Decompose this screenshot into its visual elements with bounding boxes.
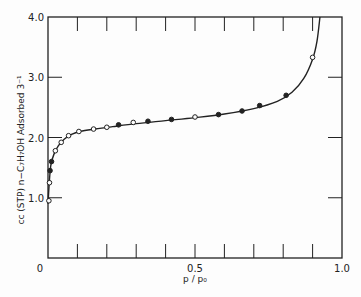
- data-point: [47, 180, 52, 185]
- y-axis-title: cc (STP) n−C₇H₇OH Adsorbed 3⁻¹: [16, 75, 26, 224]
- data-point: [105, 125, 110, 130]
- data-point: [310, 55, 315, 60]
- x-tick-label: 0.5: [187, 263, 203, 274]
- data-point: [66, 133, 71, 138]
- axis-tick-labels: 00.51.01.02.03.04.0: [28, 12, 350, 274]
- x-tick-label: 0: [37, 263, 43, 274]
- x-tick-label: 1.0: [334, 263, 350, 274]
- x-axis-title: p / p₀: [183, 274, 207, 284]
- data-point: [193, 115, 198, 120]
- y-tick-label: 4.0: [28, 12, 44, 23]
- data-point: [240, 109, 245, 114]
- data-point: [49, 159, 54, 164]
- data-point: [131, 120, 136, 125]
- data-point: [47, 198, 52, 203]
- data-point: [91, 127, 96, 132]
- data-point: [116, 123, 121, 128]
- adsorption-isotherm-chart: 00.51.01.02.03.04.0 p / p₀ cc (STP) n−C₇…: [0, 0, 361, 297]
- data-point: [48, 168, 53, 173]
- plot-border: [48, 17, 342, 258]
- axis-ticks: [48, 17, 342, 258]
- plot-frame: [48, 17, 342, 258]
- data-point: [216, 112, 221, 117]
- data-point: [53, 148, 58, 153]
- y-tick-label: 2.0: [28, 133, 44, 144]
- data-point: [169, 117, 174, 122]
- data-point: [146, 119, 151, 124]
- data-point: [59, 140, 64, 145]
- y-tick-label: 3.0: [28, 72, 44, 83]
- data-point: [284, 93, 289, 98]
- data-point: [257, 103, 262, 108]
- y-tick-label: 1.0: [28, 193, 44, 204]
- fitted-curve: [48, 17, 320, 204]
- data-point-markers: [47, 55, 315, 203]
- data-point: [77, 129, 82, 134]
